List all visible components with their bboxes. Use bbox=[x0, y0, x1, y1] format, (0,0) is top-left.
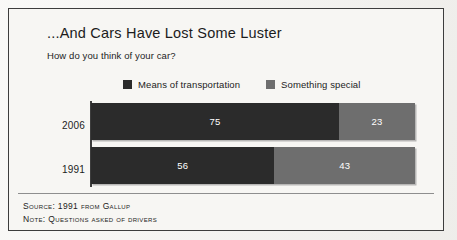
table-row: 75 23 bbox=[91, 103, 415, 140]
chart-subtitle: How do you think of your car? bbox=[47, 50, 176, 61]
bar-value-1991-something-special: 43 bbox=[339, 160, 350, 171]
chart-legend: Means of transportation Something specia… bbox=[123, 79, 360, 90]
table-row: 56 43 bbox=[91, 147, 415, 184]
footer-divider bbox=[18, 193, 434, 194]
bar-value-2006-means-of-transportation: 75 bbox=[209, 116, 220, 127]
legend-swatch-gray bbox=[266, 80, 275, 89]
bar-value-2006-something-special: 23 bbox=[371, 116, 382, 127]
bar-category-label-1991: 1991 bbox=[15, 164, 85, 175]
chart-footer: Source: 1991 from Gallup Note: Questions… bbox=[23, 200, 157, 226]
footer-note: Note: Questions asked of drivers bbox=[23, 213, 157, 226]
legend-item-means-of-transportation: Means of transportation bbox=[123, 79, 240, 90]
chart-title: ...And Cars Have Lost Some Luster bbox=[47, 25, 282, 41]
legend-item-something-special: Something special bbox=[266, 79, 360, 90]
legend-label-means-of-transportation: Means of transportation bbox=[138, 79, 240, 90]
chart-plot-area: 75 23 56 43 bbox=[90, 101, 415, 187]
bar-segment-1991-something-special: 43 bbox=[274, 147, 415, 184]
footer-source: Source: 1991 from Gallup bbox=[23, 200, 157, 213]
legend-swatch-dark bbox=[123, 80, 132, 89]
chart-figure: ...And Cars Have Lost Some Luster How do… bbox=[0, 0, 457, 240]
bar-category-label-2006: 2006 bbox=[15, 120, 85, 131]
bar-segment-2006-means-of-transportation: 75 bbox=[91, 103, 339, 140]
chart-frame: ...And Cars Have Lost Some Luster How do… bbox=[8, 8, 444, 231]
bar-segment-1991-means-of-transportation: 56 bbox=[91, 147, 274, 184]
legend-label-something-special: Something special bbox=[281, 79, 360, 90]
bar-value-1991-means-of-transportation: 56 bbox=[177, 160, 188, 171]
bar-segment-2006-something-special: 23 bbox=[339, 103, 415, 140]
